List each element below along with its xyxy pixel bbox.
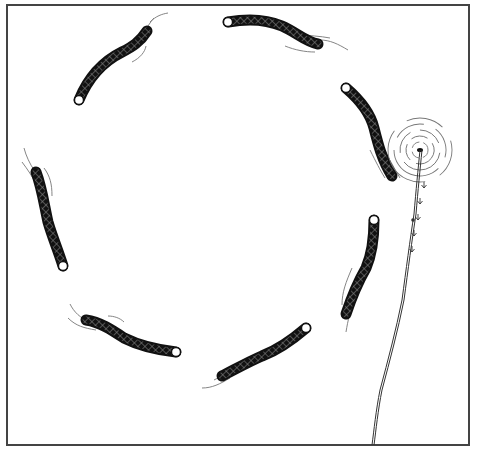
line-knot [411, 218, 415, 222]
fish-head [302, 324, 311, 333]
picture-frame [7, 5, 469, 445]
fish-head [342, 84, 351, 93]
fish-head [59, 262, 68, 271]
fish-head [172, 348, 181, 357]
illustration-canvas [0, 0, 477, 450]
fish-head [224, 18, 233, 27]
fish-circle-drawing [0, 0, 477, 450]
fish-head [75, 96, 84, 105]
fish-head [370, 216, 379, 225]
